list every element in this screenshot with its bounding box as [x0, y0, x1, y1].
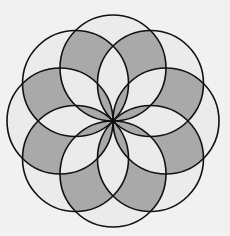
rosette-diagram [0, 0, 230, 236]
